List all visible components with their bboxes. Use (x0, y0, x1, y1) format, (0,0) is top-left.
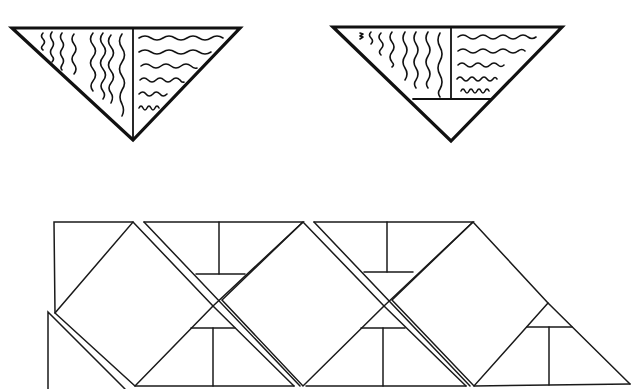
triangle-outline (12, 28, 240, 140)
diamond (222, 222, 384, 386)
top-triangle-edge (314, 222, 473, 306)
bottom-triangle-right (384, 306, 466, 386)
bottom-quilt-strip (48, 222, 630, 389)
right-edge (548, 303, 630, 384)
triangle-outline (333, 27, 562, 141)
repeat-unit-3 (392, 222, 630, 386)
top-left-triangle (12, 28, 240, 140)
corner-triangle-bottom (48, 312, 125, 389)
repeat-unit-1 (55, 222, 303, 386)
bottom-base (474, 384, 630, 386)
vertical-grain-waves (42, 32, 125, 116)
top-right-triangle (333, 27, 562, 141)
bottom-triangle-right (213, 306, 294, 386)
horizontal-grain-waves (139, 36, 223, 110)
repeat-unit-2 (222, 222, 473, 386)
top-triangle-edge (144, 222, 303, 306)
diamond (55, 222, 213, 386)
diamond (392, 222, 548, 386)
diagram-canvas (0, 0, 636, 389)
